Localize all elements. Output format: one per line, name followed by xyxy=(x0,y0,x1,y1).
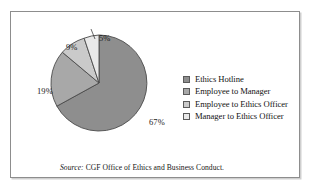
legend-swatch-icon-manager-to-ethics-officer xyxy=(183,113,190,120)
source-note: Source: CGF Office of Ethics and Busines… xyxy=(60,164,224,172)
source-text: CGF Office of Ethics and Business Conduc… xyxy=(86,163,224,172)
legend-item-manager-to-ethics-officer: Manager to Ethics Officer xyxy=(183,111,305,123)
pie-label-9: 9% xyxy=(66,43,78,52)
pie-chart-area: 67% 19% 9% 5% xyxy=(11,12,186,152)
pie-label-67: 67% xyxy=(149,118,165,127)
legend-swatch-icon-employee-to-ethics-officer xyxy=(183,101,190,108)
figure-frame: 67% 19% 9% 5% Ethics Hotline Employee to… xyxy=(10,11,300,178)
chart-legend: Ethics Hotline Employee to Manager Emplo… xyxy=(183,73,305,123)
legend-item-ethics-hotline: Ethics Hotline xyxy=(183,73,305,85)
legend-label-ethics-hotline: Ethics Hotline xyxy=(195,75,244,84)
pie-label-5: 5% xyxy=(99,34,111,43)
legend-label-employee-to-ethics-officer: Employee to Ethics Officer xyxy=(195,100,288,109)
legend-item-employee-to-manager: Employee to Manager xyxy=(183,86,305,98)
chart-figure: 67% 19% 9% 5% Ethics Hotline Employee to… xyxy=(0,0,313,190)
legend-swatch-icon-ethics-hotline xyxy=(183,76,190,83)
legend-label-employee-to-manager: Employee to Manager xyxy=(195,87,270,96)
pie-label-19: 19% xyxy=(37,87,53,96)
legend-label-manager-to-ethics-officer: Manager to Ethics Officer xyxy=(195,112,284,121)
legend-swatch-icon-employee-to-manager xyxy=(183,88,190,95)
source-label: Source: xyxy=(60,163,84,172)
legend-item-employee-to-ethics-officer: Employee to Ethics Officer xyxy=(183,98,305,110)
